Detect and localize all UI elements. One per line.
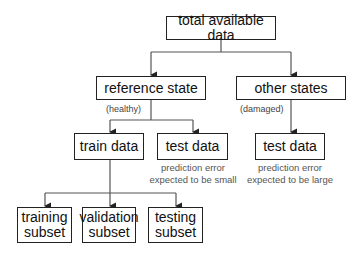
- node-label: total available data: [167, 13, 275, 43]
- reference-state-note: (healthy): [106, 104, 141, 114]
- other-states-note: (damaged): [240, 104, 284, 114]
- node-train-data: train data: [74, 133, 144, 160]
- node-other-states: other states: [236, 76, 346, 100]
- node-label-line2: subset: [155, 225, 196, 240]
- caption-line: expected to be large: [240, 174, 340, 186]
- caption-line: prediction error: [240, 162, 340, 174]
- node-testing-subset: testing subset: [148, 207, 203, 243]
- node-test-data-reference: test data: [157, 133, 228, 160]
- node-label: reference state: [104, 81, 197, 96]
- node-test-data-other: test data: [255, 133, 325, 160]
- node-label: train data: [80, 139, 138, 154]
- node-label: test data: [166, 139, 220, 154]
- caption-line: prediction error: [143, 162, 243, 174]
- node-label: other states: [254, 81, 327, 96]
- node-validation-subset: validation subset: [82, 207, 136, 243]
- node-total-available-data: total available data: [166, 16, 276, 40]
- test-data-other-caption: prediction error expected to be large: [240, 162, 340, 186]
- test-data-reference-caption: prediction error expected to be small: [143, 162, 243, 186]
- node-label-line2: subset: [88, 225, 129, 240]
- node-label-line1: validation: [79, 210, 138, 225]
- node-label-line1: testing: [155, 210, 196, 225]
- node-label: test data: [263, 139, 317, 154]
- node-reference-state: reference state: [96, 76, 206, 100]
- caption-line: expected to be small: [143, 174, 243, 186]
- node-label-line1: training: [22, 210, 68, 225]
- node-training-subset: training subset: [17, 207, 72, 243]
- node-label-line2: subset: [24, 225, 65, 240]
